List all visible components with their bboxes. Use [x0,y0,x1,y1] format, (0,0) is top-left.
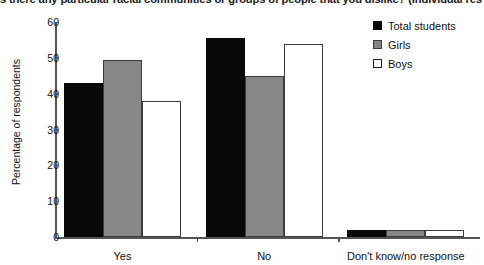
bar-total-students-don-t-know-no-response [347,230,386,237]
y-tick-mark [55,237,59,239]
x-category-label-3: Don't know/no response [347,250,465,262]
legend-label: Total students [388,20,456,32]
chart-legend: Total studentsGirlsBoys [373,17,456,74]
legend-swatch-icon [373,21,382,30]
legend-swatch-icon [373,40,382,49]
bar-chart-figure: s there any particular racial communitie… [0,0,484,265]
bar-girls-yes [103,60,142,237]
y-tick-label-30: 30 [3,124,59,136]
x-tick-mark [197,238,199,242]
y-tick-label-20: 20 [3,159,59,171]
x-category-label-1: Yes [114,250,132,262]
y-tick-label-10: 10 [3,195,59,207]
x-axis-line [55,237,480,239]
legend-item-girls[interactable]: Girls [373,36,456,53]
legend-item-total-students[interactable]: Total students [373,17,456,34]
y-tick-mark [55,57,59,59]
chart-title: s there any particular racial communitie… [0,0,484,5]
y-tick-label-40: 40 [3,88,59,100]
y-tick-label-60: 60 [3,16,59,28]
bar-boys-yes [142,101,181,237]
legend-item-boys[interactable]: Boys [373,55,456,72]
legend-label: Girls [388,39,411,51]
y-tick-mark [55,201,59,203]
y-tick-mark [55,22,59,24]
bar-girls-no [245,76,284,237]
bar-boys-no [284,44,323,238]
legend-label: Boys [388,58,412,70]
bar-total-students-no [206,38,245,237]
legend-swatch-icon [373,59,382,68]
x-category-label-2: No [257,250,271,262]
y-tick-label-0: 0 [3,231,59,243]
bar-girls-don-t-know-no-response [386,230,425,237]
bar-boys-don-t-know-no-response [425,230,464,237]
y-tick-label-50: 50 [3,52,59,64]
y-tick-mark [55,165,59,167]
bar-total-students-yes [64,83,103,237]
y-tick-mark [55,129,59,131]
x-tick-mark [338,238,340,242]
y-tick-mark [55,93,59,95]
